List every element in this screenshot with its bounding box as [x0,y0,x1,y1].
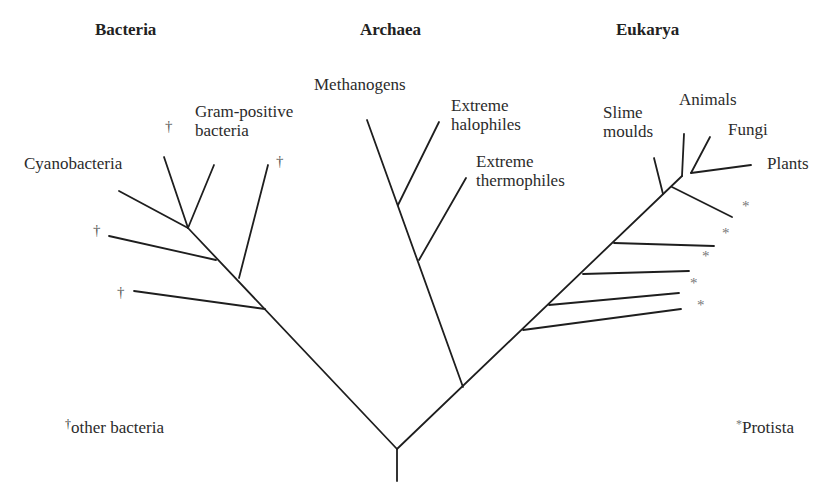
dagger-marker: † [117,284,125,301]
tree-branch [583,271,689,274]
tree-branch [523,309,681,330]
label-cyanobacteria: Cyanobacteria [24,154,122,173]
tree-branch [654,158,663,194]
tree-branch [682,134,684,176]
tree-branch [134,291,265,309]
tree-branch [239,165,268,278]
tree-branch [419,178,466,260]
label-extreme-thermophiles: Extremethermophiles [476,152,565,190]
domain-heading-eukarya: Eukarya [616,20,679,40]
label-slime-moulds: Slimemoulds [603,103,653,141]
domain-heading-archaea: Archaea [360,20,421,40]
asterisk-marker: * [742,198,750,215]
tree-branch [188,165,214,228]
tree-branch [691,137,710,173]
legend-other-bacteria: †other bacteria [65,415,164,437]
dagger-marker: † [276,153,284,170]
tree-branch [549,293,679,305]
asterisk-marker: * [722,225,730,242]
tree-branch [367,120,463,387]
label-extreme-halophiles: Extremehalophiles [451,96,521,134]
domain-heading-bacteria: Bacteria [95,20,156,40]
tree-branch [188,228,397,449]
tree-branch [398,122,439,205]
tree-branch [691,165,751,173]
label-fungi: Fungi [728,120,768,139]
asterisk-marker: * [702,248,710,265]
label-plants: Plants [767,154,809,173]
label-methanogens: Methanogens [314,75,406,94]
tree-branch [397,176,682,449]
dagger-marker: † [165,118,173,135]
tree-branch [672,187,732,217]
asterisk-marker: * [697,297,705,314]
dagger-marker: † [93,222,101,239]
asterisk-marker: * [690,275,698,292]
label-animals: Animals [679,90,737,109]
legend-protista: *Protista [736,415,794,437]
label-gram-positive: Gram-positivebacteria [195,102,293,140]
tree-branch [614,243,714,246]
